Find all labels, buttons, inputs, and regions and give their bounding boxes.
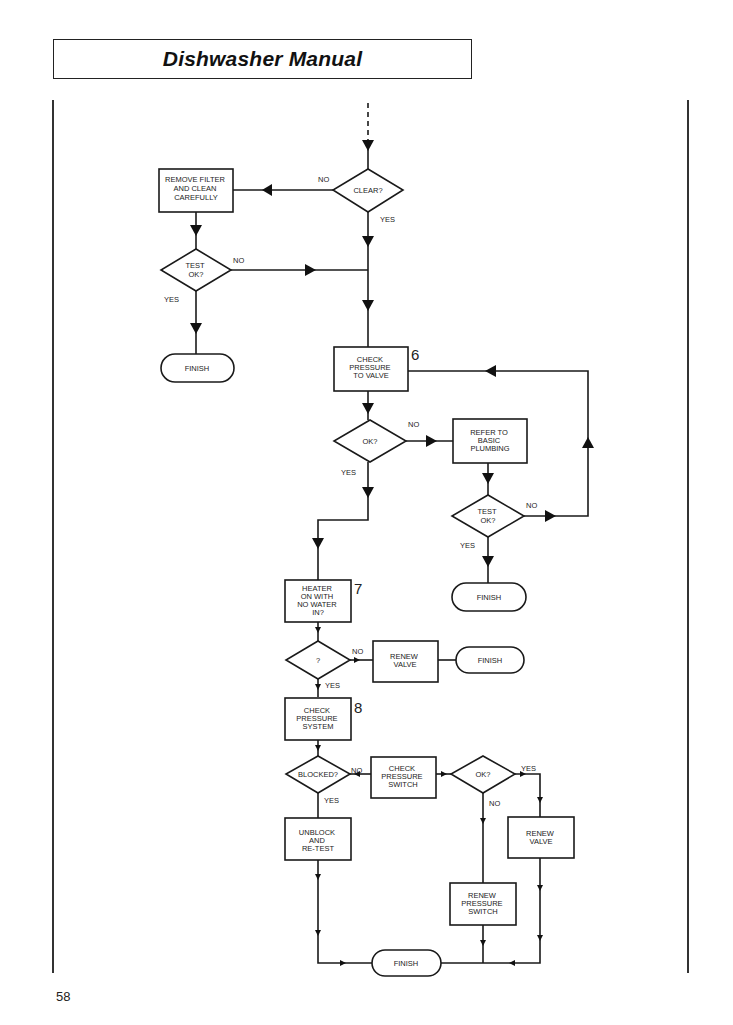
terminal-finish-4: FINISH (372, 950, 441, 976)
process-check-pressure-to-valve: CHECK PRESSURE TO VALVE 6 (334, 346, 419, 391)
decision-blocked: BLOCKED? (286, 756, 350, 793)
process-unblock-and-retest: UNBLOCK AND RE-TEST (285, 818, 351, 860)
svg-text:NO: NO (489, 799, 500, 808)
svg-text:OK?: OK? (475, 770, 490, 779)
decision-test-ok-1: TEST OK? (161, 249, 231, 291)
step-number-7: 7 (354, 580, 362, 597)
terminal-finish-1: FINISH (161, 354, 234, 382)
svg-text:YES: YES (341, 468, 356, 477)
flowchart: CLEAR? REMOVE FILTER AND CLEAN CAREFULLY… (0, 0, 733, 1025)
step-number-6: 6 (411, 346, 419, 363)
svg-text:RENEW VALVE: RENEW VALVE (526, 829, 556, 846)
svg-text:NO: NO (526, 501, 537, 510)
step-number-8: 8 (354, 699, 362, 716)
process-check-pressure-system: CHECK PRESSURE SYSTEM 8 (285, 698, 362, 740)
svg-text:TEST OK?: TEST OK? (185, 261, 206, 279)
terminal-finish-3: FINISH (456, 647, 524, 673)
svg-text:YES: YES (380, 215, 395, 224)
process-renew-valve-2: RENEW VALVE (508, 817, 574, 858)
svg-text:TEST OK?: TEST OK? (477, 507, 498, 525)
svg-text:RENEW VALVE: RENEW VALVE (390, 652, 420, 669)
svg-text:FINISH: FINISH (185, 364, 210, 373)
process-remove-filter: REMOVE FILTER AND CLEAN CAREFULLY (159, 169, 233, 212)
svg-text:YES: YES (164, 295, 179, 304)
decision-clear: CLEAR? (333, 169, 403, 212)
svg-text:YES: YES (460, 541, 475, 550)
svg-text:FINISH: FINISH (394, 959, 419, 968)
decision-question: ? (286, 641, 350, 679)
svg-text:REMOVE FILTER AND CLEAN: REMOVE FILTER AND CLEAN CAREFULLY (165, 175, 227, 202)
svg-text:YES: YES (325, 681, 340, 690)
decision-ok-1: OK? (334, 420, 406, 462)
svg-text:NO: NO (351, 766, 362, 775)
decision-test-ok-2: TEST OK? (452, 495, 524, 537)
node-text: CLEAR? (353, 186, 382, 195)
process-renew-valve-1: RENEW VALVE (373, 641, 438, 682)
svg-text:?: ? (316, 656, 320, 665)
process-refer-to-basic-plumbing: REFER TO BASIC PLUMBING (453, 419, 527, 463)
process-heater-on-with-no-water: HEATER ON WITH NO WATER IN? 7 (285, 580, 362, 622)
svg-text:NO: NO (408, 420, 419, 429)
svg-text:YES: YES (324, 796, 339, 805)
svg-text:OK?: OK? (362, 437, 377, 446)
svg-text:NO: NO (352, 647, 363, 656)
svg-text:NO: NO (233, 256, 244, 265)
svg-text:BLOCKED?: BLOCKED? (298, 770, 338, 779)
terminal-finish-2: FINISH (452, 583, 526, 611)
svg-text:CLEAR?: CLEAR? (353, 186, 382, 195)
svg-text:NO: NO (318, 175, 329, 184)
svg-text:YES: YES (521, 764, 536, 773)
svg-text:FINISH: FINISH (477, 593, 502, 602)
process-check-pressure-switch: CHECK PRESSURE SWITCH (371, 757, 436, 798)
decision-ok-2: OK? (451, 756, 515, 793)
process-renew-pressure-switch: RENEW PRESSURE SWITCH (450, 883, 516, 925)
svg-text:FINISH: FINISH (478, 656, 503, 665)
